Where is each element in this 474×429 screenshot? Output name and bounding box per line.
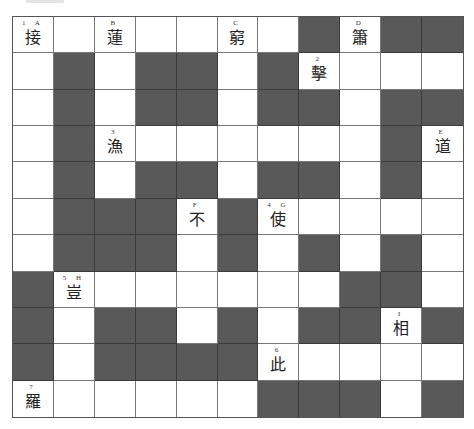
clue-number: B <box>95 19 135 27</box>
grid-cell[interactable] <box>299 344 340 380</box>
block-cell <box>54 162 95 198</box>
clue-number: D <box>340 19 380 27</box>
grid-cell[interactable] <box>136 272 177 308</box>
block-cell <box>422 17 463 53</box>
grid-cell[interactable] <box>258 272 299 308</box>
grid-cell[interactable]: I相 <box>381 308 422 344</box>
cell-character: 相 <box>381 319 421 339</box>
grid-cell[interactable] <box>381 344 422 380</box>
grid-cell[interactable] <box>13 199 54 235</box>
grid-cell[interactable]: B蓮 <box>95 17 136 53</box>
grid-cell[interactable] <box>54 344 95 380</box>
grid-cell[interactable] <box>177 381 218 417</box>
cell-character: 擊 <box>299 64 339 84</box>
grid-cell[interactable] <box>299 126 340 162</box>
grid-cell[interactable] <box>177 17 218 53</box>
grid-cell[interactable] <box>340 199 381 235</box>
block-cell <box>381 126 422 162</box>
cell-character: 窮 <box>218 28 258 48</box>
grid-cell[interactable]: C窮 <box>218 17 259 53</box>
grid-cell[interactable] <box>299 199 340 235</box>
grid-cell[interactable] <box>177 272 218 308</box>
block-cell <box>218 199 259 235</box>
block-cell <box>258 381 299 417</box>
grid-cell[interactable] <box>381 199 422 235</box>
grid-cell[interactable] <box>95 162 136 198</box>
grid-cell[interactable]: 7羅 <box>13 381 54 417</box>
grid-cell[interactable] <box>95 53 136 89</box>
grid-cell[interactable]: 2擊 <box>299 53 340 89</box>
grid-cell[interactable] <box>299 272 340 308</box>
grid-cell[interactable] <box>218 126 259 162</box>
block-cell <box>381 17 422 53</box>
grid-cell[interactable] <box>258 126 299 162</box>
grid-cell[interactable] <box>340 162 381 198</box>
grid-cell[interactable]: 3漁 <box>95 126 136 162</box>
grid-cell[interactable] <box>218 53 259 89</box>
grid-cell[interactable] <box>422 235 463 271</box>
grid-cell[interactable] <box>136 17 177 53</box>
grid-cell[interactable] <box>13 90 54 126</box>
grid-cell[interactable] <box>13 235 54 271</box>
grid-cell[interactable] <box>13 162 54 198</box>
grid-cell[interactable] <box>136 381 177 417</box>
block-cell <box>177 90 218 126</box>
grid-cell[interactable] <box>218 162 259 198</box>
block-cell <box>95 235 136 271</box>
grid-cell[interactable] <box>136 126 177 162</box>
block-cell <box>136 235 177 271</box>
clue-number: C <box>218 19 258 27</box>
clue-number: 4 G <box>258 201 298 209</box>
grid-cell[interactable] <box>340 53 381 89</box>
block-cell <box>258 162 299 198</box>
grid-cell[interactable] <box>340 235 381 271</box>
grid-cell[interactable] <box>381 381 422 417</box>
grid-cell[interactable] <box>13 53 54 89</box>
block-cell <box>218 235 259 271</box>
grid-cell[interactable] <box>258 235 299 271</box>
grid-cell[interactable] <box>95 272 136 308</box>
grid-cell[interactable] <box>340 90 381 126</box>
grid-cell[interactable]: 5 H豈 <box>54 272 95 308</box>
grid-cell[interactable]: F不 <box>177 199 218 235</box>
clue-number: 6 <box>258 346 298 354</box>
grid-cell[interactable] <box>258 17 299 53</box>
grid-cell[interactable] <box>422 272 463 308</box>
grid-cell[interactable] <box>340 344 381 380</box>
grid-cell[interactable] <box>218 90 259 126</box>
grid-cell[interactable] <box>422 344 463 380</box>
block-cell <box>340 308 381 344</box>
grid-cell[interactable]: E道 <box>422 126 463 162</box>
grid-cell[interactable] <box>381 53 422 89</box>
grid-cell[interactable] <box>54 308 95 344</box>
grid-cell[interactable] <box>218 272 259 308</box>
grid-cell[interactable] <box>177 126 218 162</box>
grid-cell[interactable] <box>54 381 95 417</box>
grid-cell[interactable] <box>13 126 54 162</box>
grid-cell[interactable] <box>422 53 463 89</box>
grid-cell[interactable] <box>95 381 136 417</box>
grid-cell[interactable] <box>177 235 218 271</box>
block-cell <box>381 235 422 271</box>
grid-cell[interactable] <box>95 90 136 126</box>
grid-cell[interactable] <box>177 308 218 344</box>
clue-number: 1 A <box>13 19 53 27</box>
grid-cell[interactable] <box>54 17 95 53</box>
clue-number: F <box>177 201 217 209</box>
crossword-grid: 1 A接B蓮C窮D簫2擊3漁E道F不4 G使5 H豈I相6此7羅 <box>12 16 464 418</box>
block-cell <box>422 381 463 417</box>
cell-character: 蓮 <box>95 28 135 48</box>
grid-cell[interactable]: 4 G使 <box>258 199 299 235</box>
grid-cell[interactable]: D簫 <box>340 17 381 53</box>
block-cell <box>177 344 218 380</box>
grid-cell[interactable]: 6此 <box>258 344 299 380</box>
cell-character: 不 <box>177 210 217 230</box>
block-cell <box>13 344 54 380</box>
grid-cell[interactable]: 1 A接 <box>13 17 54 53</box>
grid-cell[interactable] <box>422 162 463 198</box>
grid-cell[interactable] <box>258 308 299 344</box>
grid-cell[interactable] <box>422 199 463 235</box>
grid-cell[interactable] <box>218 381 259 417</box>
block-cell <box>299 17 340 53</box>
grid-cell[interactable] <box>340 126 381 162</box>
